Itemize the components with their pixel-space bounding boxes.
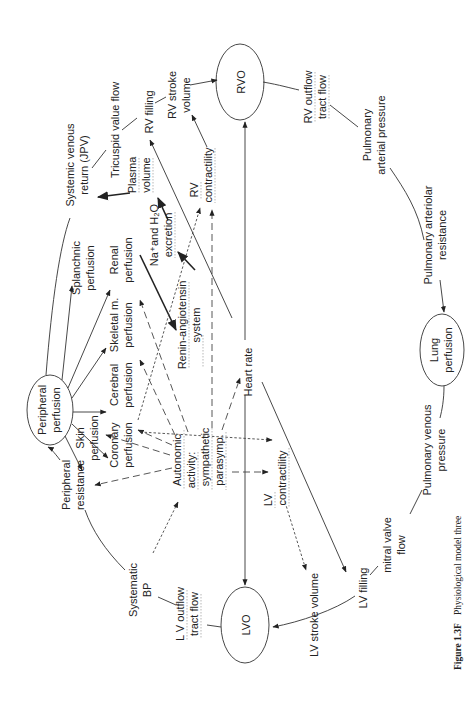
svg-text:tract flow: tract flow: [188, 592, 200, 636]
svg-text:Plasma: Plasma: [126, 156, 138, 194]
svg-text:Renal: Renal: [108, 246, 120, 275]
label-lv-filling: LV filling: [357, 568, 369, 609]
label-renal-perfusion: Renal perfusion: [108, 237, 134, 282]
label-pulmonary-arterial-pressure: Pulmonary arterial pressure: [361, 95, 387, 174]
svg-text:Coronary: Coronary: [108, 422, 120, 468]
node-lvo: LVO: [221, 587, 269, 663]
label-heart-rate: Heart rate: [242, 348, 254, 397]
svg-text:Pulmonary: Pulmonary: [361, 108, 373, 161]
peripheral-perfusion-line2: perfusion: [50, 387, 62, 432]
svg-text:perfusion: perfusion: [122, 422, 134, 467]
lung-perfusion-line2: perfusion: [442, 327, 454, 372]
svg-text:Systemic venous: Systemic venous: [64, 123, 76, 207]
svg-text:Systematic: Systematic: [127, 563, 139, 617]
label-lv-contractility: LV contractility: [262, 448, 289, 508]
label-renin-angiotensin: Renin-angiotensin system: [176, 281, 203, 370]
svg-text:RV stroke: RV stroke: [166, 71, 178, 119]
dotted-influences: [138, 208, 306, 570]
svg-text:L V outflow: L V outflow: [174, 587, 186, 641]
svg-text:pressure: pressure: [435, 429, 447, 472]
lung-perfusion-line1: Lung: [428, 338, 440, 362]
svg-text:RV outflow: RV outflow: [302, 70, 314, 123]
label-lv-outflow: L V outflow tract flow: [174, 587, 201, 641]
label-skeletal-perfusion: Skeletal m. perfusion: [108, 298, 134, 352]
svg-text:Cerebral: Cerebral: [108, 364, 120, 406]
svg-text:BP: BP: [141, 583, 153, 598]
label-pulmonary-venous-pressure: Pulmonary venous pressure: [421, 404, 447, 496]
svg-text:perfusion: perfusion: [122, 362, 134, 407]
label-systematic-bp: Systematic BP: [127, 563, 153, 617]
label-mitral-valve-flow: mitral valve flow: [381, 517, 407, 573]
label-na-h2o-excretion: Na⁺and H₂O excretion: [148, 203, 175, 266]
svg-text:parasymp.: parasymp.: [213, 434, 225, 485]
label-pulmonary-arteriolar-resistance: Pulmonary arteriolar resistance: [422, 185, 448, 284]
label-systemic-venous-return: Systemic venous return (JPV): [64, 123, 90, 207]
svg-text:perfusion: perfusion: [122, 302, 134, 347]
peripheral-perfusion-line1: Peripheral: [36, 385, 48, 435]
svg-text:Skin: Skin: [74, 427, 86, 448]
label-lv-stroke-volume: LV stroke volume: [308, 573, 320, 657]
node-rvo: RVO: [216, 44, 264, 120]
svg-text:volume: volume: [180, 77, 192, 112]
svg-text:resistance: resistance: [74, 460, 86, 510]
figure-caption: Figure 1.3F Physiological model three: [453, 516, 463, 670]
svg-text:tract flow: tract flow: [316, 75, 328, 119]
svg-text:perfusion: perfusion: [122, 237, 134, 282]
svg-text:contractility: contractility: [276, 450, 288, 506]
label-rv-stroke-volume: RV stroke volume: [166, 71, 192, 119]
svg-text:Skeletal m.: Skeletal m.: [108, 298, 120, 352]
svg-text:Peripheral: Peripheral: [60, 460, 72, 510]
svg-text:Renin-angiotensin: Renin-angiotensin: [176, 281, 188, 370]
svg-text:arterial pressure: arterial pressure: [375, 95, 387, 174]
diagram-canvas: Peripheral perfusion RVO LVO Lung perfus…: [0, 0, 469, 710]
svg-text:perfusion: perfusion: [88, 415, 100, 460]
svg-text:Figure 1.3F: Figure 1.3F: [453, 623, 463, 670]
node-lung-perfusion: Lung perfusion: [420, 314, 464, 386]
label-rv-outflow: RV outflow tract flow: [302, 70, 329, 123]
rvo-label: RVO: [235, 70, 247, 94]
svg-text:RV: RV: [188, 182, 200, 198]
label-tricuspid-flow: Tricuspid value flow: [109, 82, 121, 178]
svg-text:Pulmonary arteriolar: Pulmonary arteriolar: [422, 185, 434, 284]
label-peripheral-resistance: Peripheral resistance: [60, 460, 86, 510]
physiological-model-diagram: Peripheral perfusion RVO LVO Lung perfus…: [0, 0, 469, 710]
svg-text:activity:: activity:: [185, 452, 197, 489]
label-plasma-volume: Plasma volume: [126, 156, 153, 194]
label-cerebral-perfusion: Cerebral perfusion: [108, 362, 134, 407]
svg-text:Autonomic: Autonomic: [171, 434, 183, 486]
caption-text: Physiological model three: [453, 516, 463, 615]
svg-text:Pulmonary venous: Pulmonary venous: [421, 404, 433, 496]
label-rv-contractility: RV contractility: [188, 147, 215, 203]
svg-text:return (JPV): return (JPV): [78, 135, 90, 194]
svg-text:LV: LV: [262, 493, 274, 506]
svg-text:Na⁺and H₂O: Na⁺and H₂O: [148, 203, 160, 266]
svg-text:resistance: resistance: [436, 210, 448, 260]
perfusion-fanout: [62, 286, 110, 470]
svg-text:mitral valve: mitral valve: [381, 517, 393, 573]
svg-text:volume: volume: [140, 157, 152, 192]
svg-text:flow: flow: [395, 535, 407, 555]
label-splanchnic-perfusion: Splanchnic perfusion: [70, 241, 96, 295]
caption-label: Figure 1.3F: [453, 623, 463, 670]
svg-text:contractility: contractility: [202, 147, 214, 203]
node-peripheral-perfusion: Peripheral perfusion: [27, 375, 73, 445]
lvo-label: LVO: [240, 614, 252, 636]
svg-text:perfusion: perfusion: [84, 245, 96, 290]
svg-text:system: system: [190, 308, 202, 343]
label-coronary-perfusion: Coronary perfusion: [108, 422, 134, 468]
label-rv-filling: RV filling: [143, 90, 155, 133]
